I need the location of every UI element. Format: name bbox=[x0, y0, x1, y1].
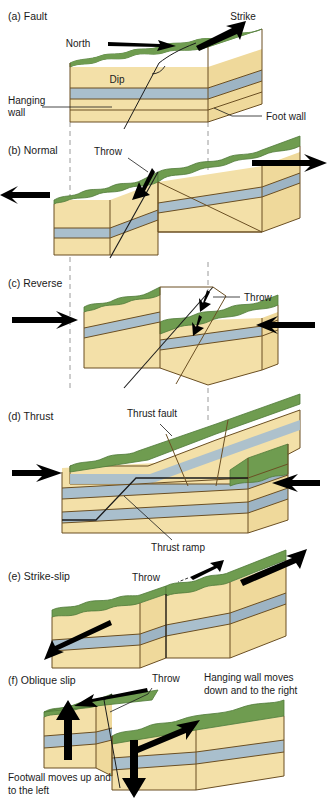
panel-a-strike-label: Strike bbox=[230, 11, 256, 22]
panel-a-title: (a) Fault bbox=[8, 10, 47, 22]
panel-d-thrust-ramp-label: Thrust ramp bbox=[151, 542, 205, 553]
panel-a-dip-label: Dip bbox=[109, 74, 124, 85]
panel-a-north-label: North bbox=[66, 38, 90, 49]
panel-f-throw-label: Throw bbox=[152, 673, 181, 684]
fault-types-figure: (a) Fault North Strike Dip Hanging wall … bbox=[0, 0, 327, 806]
panel-f-footwall-note-line2: to the left bbox=[8, 785, 49, 796]
panel-d-title: (d) Thrust bbox=[8, 410, 53, 422]
panel-b-title: (b) Normal bbox=[8, 144, 58, 156]
fault-diagram-canvas: (a) Fault North Strike Dip Hanging wall … bbox=[0, 0, 327, 806]
panel-d-thrust-fault-label: Thrust fault bbox=[127, 408, 177, 419]
panel-f-title: (f) Oblique slip bbox=[8, 674, 76, 686]
panel-a-front-shale bbox=[70, 88, 208, 99]
panel-b-left-shale bbox=[54, 228, 110, 238]
panel-b-throw-label: Throw bbox=[94, 146, 123, 157]
panel-f-footwall-note-line1: Footwall moves up and bbox=[8, 772, 111, 783]
panel-e-throw-label: Throw bbox=[132, 572, 161, 583]
panel-a-hangingwall-label-line1: Hanging bbox=[8, 95, 45, 106]
panel-a-footwall-label: Foot wall bbox=[266, 111, 306, 122]
panel-e-title: (e) Strike-slip bbox=[8, 570, 70, 582]
panel-a-hangingwall-label-line2: wall bbox=[7, 107, 25, 118]
panel-c-title: (c) Reverse bbox=[8, 277, 62, 289]
panel-c-throw-label: Throw bbox=[244, 292, 273, 303]
panel-f-hangingwall-note-line1: Hanging wall moves bbox=[204, 672, 294, 683]
panel-f-hangingwall-note-line2: down and to the right bbox=[204, 685, 298, 696]
